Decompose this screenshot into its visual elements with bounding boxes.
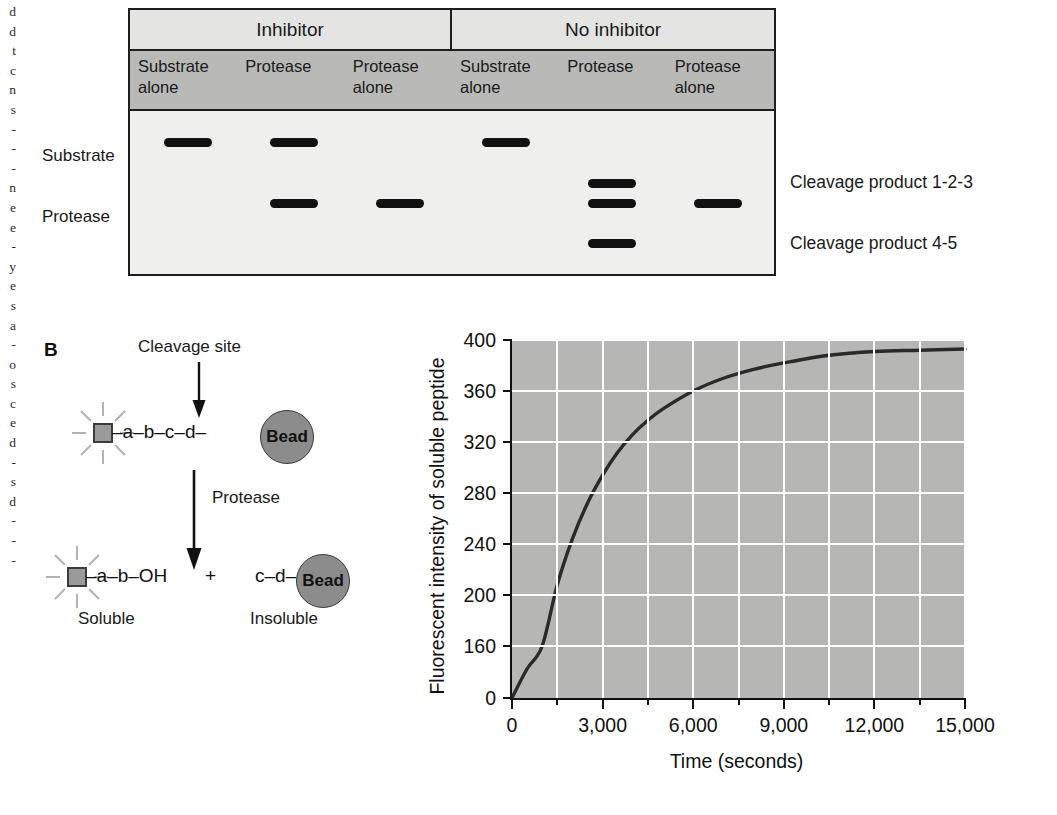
kinetics-chart: Fluorescent intensity of soluble peptide… xyxy=(432,326,1050,786)
chart-x-tick-major xyxy=(873,698,875,709)
chart-y-tick-label: 160 xyxy=(426,635,496,658)
chart-x-tick-major xyxy=(511,698,513,709)
fluorophore-square-product-icon xyxy=(67,567,87,587)
chart-x-tick-minor xyxy=(738,698,740,705)
protease-arrow-label: Protease xyxy=(212,488,280,508)
fluorophore-square-icon xyxy=(93,423,113,443)
chart-x-tick-major xyxy=(964,698,966,709)
chart-x-tick-major xyxy=(692,698,694,709)
gel-row-label-protease: Protease xyxy=(42,207,110,227)
chart-gridline-vertical xyxy=(919,340,921,698)
panel-b-diagram: Cleavage site –a–b–c–d– Bead Protease xyxy=(60,322,420,622)
gel-lane-area xyxy=(130,111,774,274)
plus-sign: + xyxy=(205,565,216,587)
chart-y-tick-label: 280 xyxy=(426,482,496,505)
chart-x-tick-label: 12,000 xyxy=(845,714,905,737)
chart-x-tick-label: 15,000 xyxy=(935,714,995,737)
bead-substrate: Bead xyxy=(260,410,314,464)
panel-b-letter: B xyxy=(44,339,58,361)
chart-y-tick xyxy=(503,390,512,392)
chart-x-tick-major xyxy=(783,698,785,709)
callout-cleavage-product-4-5: Cleavage product 4-5 xyxy=(790,233,957,254)
protease-reaction-arrow-icon xyxy=(183,470,207,572)
chart-y-tick-label: 400 xyxy=(426,329,496,352)
group-header-no-inhibitor-label: No inhibitor xyxy=(565,19,661,41)
group-header-inhibitor-label: Inhibitor xyxy=(256,19,324,41)
chart-x-tick-label: 6,000 xyxy=(669,714,718,737)
chart-x-tick-label: 0 xyxy=(507,714,518,737)
chart-y-tick xyxy=(503,492,512,494)
chart-y-tick-label: 200 xyxy=(426,584,496,607)
gel-lane-header-row: Substrate alone Protease Protease alone … xyxy=(130,51,774,111)
chart-y-tick-label: 360 xyxy=(426,380,496,403)
chart-x-tick-label: 3,000 xyxy=(578,714,627,737)
chart-gridline-vertical xyxy=(738,340,740,698)
insoluble-product-chain-label: c–d– xyxy=(255,565,296,587)
lane-header-6: Protease alone xyxy=(667,51,774,109)
gel-band xyxy=(164,138,212,147)
substrate-chain-label: –a–b–c–d– xyxy=(112,421,206,443)
chart-gridline-vertical xyxy=(602,340,604,698)
cleavage-site-arrow-icon xyxy=(188,362,210,420)
gel-row-label-substrate: Substrate xyxy=(42,146,115,166)
gel-band xyxy=(270,199,318,208)
soluble-product-chain-label: –a–b–OH xyxy=(86,565,167,587)
chart-y-tick xyxy=(503,645,512,647)
chart-y-tick xyxy=(503,441,512,443)
chart-gridline-vertical xyxy=(556,340,558,698)
lane-header-6-line1: Protease xyxy=(675,56,774,77)
lane-header-4: Substrate alone xyxy=(452,51,559,109)
chart-x-tick-label: 9,000 xyxy=(759,714,808,737)
lane-header-6-line2: alone xyxy=(675,77,774,98)
chart-x-tick-major xyxy=(602,698,604,709)
gel-band xyxy=(694,199,742,208)
chart-gridline-vertical xyxy=(647,340,649,698)
lane-header-5-line1: Protease xyxy=(567,56,666,77)
chart-x-tick-minor xyxy=(919,698,921,705)
cleavage-site-label: Cleavage site xyxy=(138,337,241,357)
lane-header-3: Protease alone xyxy=(345,51,452,109)
lane-header-1: Substrate alone xyxy=(130,51,237,109)
lane-header-3-line1: Protease xyxy=(353,56,452,77)
gel-group-header-row: Inhibitor No inhibitor xyxy=(130,10,774,51)
bead-insoluble: Bead xyxy=(296,554,350,608)
insoluble-label: Insoluble xyxy=(250,609,318,629)
lane-header-2: Protease xyxy=(237,51,344,109)
gel-band xyxy=(270,138,318,147)
chart-x-tick-minor xyxy=(556,698,558,705)
chart-gridline-vertical xyxy=(873,340,875,698)
chart-plot-area: 016020024028032036040003,0006,0009,00012… xyxy=(510,340,965,700)
gel-band xyxy=(588,179,636,188)
bead-insoluble-label: Bead xyxy=(302,571,344,591)
group-header-no-inhibitor: No inhibitor xyxy=(452,10,774,49)
lane-header-4-line2: alone xyxy=(460,77,559,98)
chart-y-tick xyxy=(503,594,512,596)
chart-y-tick xyxy=(503,339,512,341)
lane-header-1-line2: alone xyxy=(138,77,237,98)
lane-header-4-line1: Substrate xyxy=(460,56,559,77)
gel-band xyxy=(588,239,636,248)
soluble-label: Soluble xyxy=(78,609,135,629)
bead-substrate-label: Bead xyxy=(266,427,308,447)
chart-x-tick-minor xyxy=(647,698,649,705)
gel-figure: Inhibitor No inhibitor Substrate alone P… xyxy=(128,8,776,276)
chart-x-tick-minor xyxy=(828,698,830,705)
group-header-inhibitor: Inhibitor xyxy=(130,10,452,49)
lane-header-3-line2: alone xyxy=(353,77,452,98)
chart-gridline-vertical xyxy=(964,340,966,698)
chart-gridline-vertical xyxy=(783,340,785,698)
chart-y-tick-label: 240 xyxy=(426,533,496,556)
chart-gridline-vertical xyxy=(692,340,694,698)
gel-band xyxy=(588,199,636,208)
chart-y-tick xyxy=(503,543,512,545)
lane-header-5: Protease xyxy=(559,51,666,109)
chart-y-tick-label: 320 xyxy=(426,431,496,454)
lane-header-1-line1: Substrate xyxy=(138,56,237,77)
chart-gridline-vertical xyxy=(828,340,830,698)
chart-x-axis-label: Time (seconds) xyxy=(510,750,963,773)
gel-band xyxy=(482,138,530,147)
gel-band xyxy=(376,199,424,208)
gel-table: Inhibitor No inhibitor Substrate alone P… xyxy=(128,8,776,276)
lane-header-2-line1: Protease xyxy=(245,56,344,77)
page-bleed-text: d d t c n s - - - n e e - y e s a - o s … xyxy=(0,2,16,802)
